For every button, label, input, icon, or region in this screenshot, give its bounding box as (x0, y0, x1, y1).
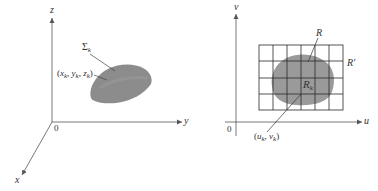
surface-integral-figure: z y x 0 Σk (xk, yk, zk) v u 0 R R' Rk (u… (0, 0, 378, 191)
sigma-subscript: k (88, 46, 91, 54)
z-axis-label: z (50, 5, 54, 15)
x-axis (22, 122, 52, 175)
surface-patch-sigma-k (90, 64, 151, 103)
rectangle-R-prime-label: R' (347, 58, 355, 68)
sigma-leader-line (90, 54, 115, 71)
point-uv-label: (uk, vk) (254, 132, 279, 143)
right-origin-label: 0 (227, 125, 232, 134)
sigma-k-label: Σk (82, 42, 91, 54)
left-origin-label: 0 (54, 124, 59, 133)
u-axis-label: u (364, 116, 369, 126)
point-xyz-label: (xk, yk, zk) (57, 69, 93, 80)
region-R-label: R (316, 28, 322, 38)
y-axis-label: y (184, 116, 188, 126)
subregion-Rk-label: Rk (303, 79, 313, 92)
x-axis-label: x (15, 175, 19, 185)
v-axis-label: v (234, 2, 238, 12)
